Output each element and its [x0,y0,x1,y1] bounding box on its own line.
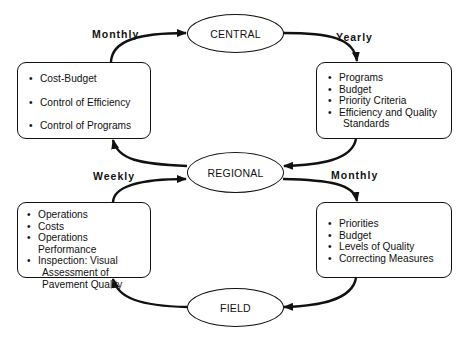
node-field: FIELD [187,288,284,327]
node-field-label: FIELD [220,302,251,314]
node-regional-label: REGIONAL [208,167,264,179]
list-item: • Costs [24,221,142,233]
list-item: • Budget [325,84,443,96]
list-item: • Control of Programs [26,120,142,132]
box-regional-directives: • Priorities • Budget • Levels of Qualit… [316,202,452,278]
bullet-icon: • [328,84,332,96]
node-central: CENTRAL [187,14,284,53]
bullet-icon: • [328,253,332,265]
node-regional: REGIONAL [187,152,284,193]
bullet-icon: • [27,209,31,221]
list-item: • Operations [24,209,142,221]
list-item: • Correcting Measures [325,253,443,265]
list-item: • Operations Performance [24,232,142,255]
edge-label-weekly: Weekly [93,170,135,182]
list-central-directives: • Programs • Budget • Priority Criteria … [325,72,443,130]
list-central-reports: • Cost-Budget • Control of Efficiency • … [26,73,142,132]
arrow-programs-to-regional [284,139,356,166]
bullet-icon: • [328,72,332,84]
list-item: • Control of Efficiency [26,97,142,109]
arrow-operations-to-regional [113,179,186,202]
box-field-reports: • Operations • Costs • Operations Perfor… [17,202,151,278]
list-item: • Budget [325,230,443,242]
bullet-icon: • [27,232,31,244]
list-field-reports: • Operations • Costs • Operations Perfor… [24,209,142,290]
list-item: • Cost-Budget [26,73,142,85]
arrow-regional-to-priorities [283,179,357,201]
arrow-regional-to-costs [113,140,187,166]
arrow-priorities-to-field [284,278,356,307]
bullet-icon: • [328,218,332,230]
list-item: • Priorities [325,218,443,230]
bullet-icon: • [27,255,31,267]
list-item: • Levels of Quality [325,241,443,253]
bullet-icon: • [29,120,33,132]
bullet-icon: • [29,73,33,85]
bullet-icon: • [328,107,332,119]
bullet-icon: • [328,230,332,242]
bullet-icon: • [328,95,332,107]
edge-label-yearly: Yearly [336,31,373,43]
bullet-icon: • [328,241,332,253]
edge-label-monthly-bottom: Monthly [331,169,378,181]
list-item: • Inspection: Visual Assessment of Pavem… [24,255,142,290]
node-central-label: CENTRAL [210,28,260,40]
list-regional-directives: • Priorities • Budget • Levels of Qualit… [325,218,443,264]
list-item: • Programs [325,72,443,84]
bullet-icon: • [27,221,31,233]
box-central-directives: • Programs • Budget • Priority Criteria … [316,62,452,139]
box-central-reports: • Cost-Budget • Control of Efficiency • … [17,62,151,139]
edge-label-monthly-top: Monthly [92,28,139,40]
list-item: • Priority Criteria [325,95,443,107]
list-item: • Efficiency and Quality Standards [325,107,443,130]
bullet-icon: • [29,97,33,109]
